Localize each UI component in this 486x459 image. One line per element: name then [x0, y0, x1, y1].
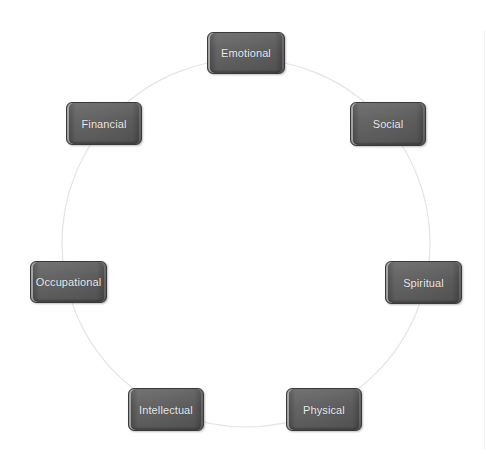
right-edge-divider [484, 30, 485, 450]
node-intellectual: Intellectual [128, 388, 204, 431]
node-label: Intellectual [139, 404, 193, 416]
node-spiritual: Spiritual [385, 261, 462, 304]
node-social: Social [350, 102, 426, 146]
wellness-cycle-diagram: Emotional Social Spiritual Physical Inte… [0, 0, 486, 459]
node-label: Emotional [221, 47, 271, 59]
node-physical: Physical [286, 388, 362, 431]
node-label: Physical [303, 404, 345, 416]
node-occupational: Occupational [30, 261, 107, 303]
node-emotional: Emotional [207, 32, 285, 74]
node-label: Social [373, 118, 404, 130]
node-label: Occupational [36, 276, 101, 288]
node-label: Spiritual [403, 277, 444, 289]
node-financial: Financial [66, 102, 142, 145]
node-label: Financial [82, 118, 127, 130]
